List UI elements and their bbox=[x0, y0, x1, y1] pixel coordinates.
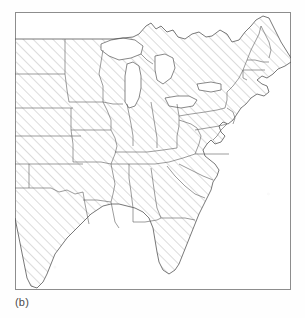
us-map bbox=[15, 12, 291, 290]
figure-panel: (b) bbox=[0, 0, 305, 318]
figure-caption: (b) bbox=[15, 295, 29, 309]
